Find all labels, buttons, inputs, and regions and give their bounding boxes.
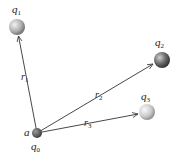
charge-q3-sphere [139,104,155,120]
q1-label: q1 [12,3,22,17]
point-a-label: a [24,126,30,138]
q2-label: q2 [155,36,165,50]
charge-vector-diagram: q1 q2 q3 q0 a r1 r2 r3 [0,0,181,153]
r3-label: r3 [84,117,92,130]
charge-q0-sphere [32,128,42,138]
charge-q1-sphere [9,19,25,35]
q3-label: q3 [141,90,151,104]
q0-label: q0 [31,140,41,153]
r1-label: r1 [21,71,29,84]
charge-q2-sphere [154,52,170,68]
r2-label: r2 [95,89,103,102]
vector-r1 [19,36,38,133]
